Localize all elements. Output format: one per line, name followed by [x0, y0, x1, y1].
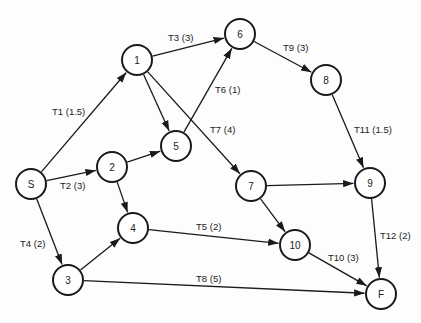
node-label: 10: [289, 240, 301, 251]
edge-label: T2 (3): [60, 180, 85, 191]
edge-3-4: [80, 238, 120, 270]
edge-2-4: [117, 182, 127, 212]
node-label: F: [378, 289, 384, 300]
node-label: 7: [248, 181, 254, 192]
node-4: 4: [118, 213, 148, 243]
edge-9-F: [372, 199, 380, 278]
node-label: 8: [323, 75, 329, 86]
edge-line: [84, 281, 365, 294]
edge-label: T7 (4): [210, 124, 235, 135]
edge-label: T6 (1): [215, 84, 240, 95]
edge-7-10: [261, 199, 286, 232]
node-label: 4: [130, 223, 136, 234]
edge-label: T5 (2): [196, 221, 221, 232]
node-label: 9: [367, 178, 373, 189]
edge-7-9: [267, 183, 354, 185]
edge-label: T1 (1.5): [52, 106, 85, 117]
edge-line: [117, 182, 127, 212]
node-3: 3: [53, 265, 83, 295]
edge-2-5: [127, 151, 160, 162]
edge-label: T4 (2): [20, 238, 45, 249]
edge-label: T3 (3): [168, 32, 193, 43]
edge-line: [127, 151, 160, 162]
node-5: 5: [161, 131, 191, 161]
nodes-layer: S12345678910F: [16, 19, 396, 309]
edge-line: [37, 199, 62, 265]
node-F: F: [366, 279, 396, 309]
node-label: 2: [109, 162, 115, 173]
edge-3-F: [84, 281, 365, 294]
edge-labels-layer: T1 (1.5)T2 (3)T4 (2)T3 (3)T7 (4)T6 (1)T8…: [20, 32, 411, 284]
network-diagram: T1 (1.5)T2 (3)T4 (2)T3 (3)T7 (4)T6 (1)T8…: [0, 0, 421, 323]
node-10: 10: [280, 230, 310, 260]
node-9: 9: [355, 168, 385, 198]
edge-label: T11 (1.5): [354, 124, 392, 135]
diagram-canvas: T1 (1.5)T2 (3)T4 (2)T3 (3)T7 (4)T6 (1)T8…: [0, 0, 421, 323]
node-7: 7: [236, 171, 266, 201]
edge-1-5: [144, 75, 170, 131]
node-label: 1: [134, 55, 140, 66]
node-8: 8: [311, 65, 341, 95]
edge-line: [144, 75, 170, 131]
edge-label: T9 (3): [283, 42, 308, 53]
node-2: 2: [97, 152, 127, 182]
node-1: 1: [122, 45, 152, 75]
edge-line: [261, 199, 286, 232]
node-label: S: [28, 179, 35, 190]
node-6: 6: [225, 19, 255, 49]
node-label: 6: [237, 29, 243, 40]
edge-label: T10 (3): [328, 252, 359, 263]
edge-label: T8 (5): [196, 273, 221, 284]
node-label: 3: [65, 275, 71, 286]
edge-line: [267, 183, 354, 185]
edge-S-3: [37, 199, 62, 265]
node-S: S: [16, 169, 46, 199]
edge-line: [80, 238, 120, 270]
node-label: 5: [173, 141, 179, 152]
edge-label: T12 (2): [380, 230, 411, 241]
edge-line: [372, 199, 380, 278]
